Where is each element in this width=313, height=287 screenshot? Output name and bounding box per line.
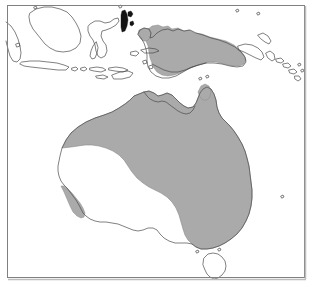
map-canvas: [0, 0, 313, 287]
distribution-map: [0, 0, 313, 287]
